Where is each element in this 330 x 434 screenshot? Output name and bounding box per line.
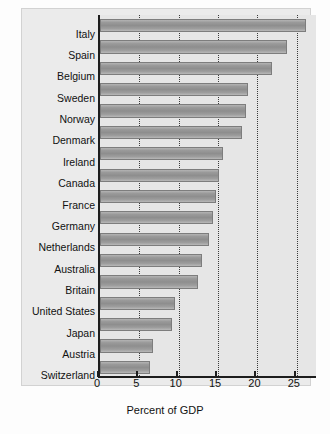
- category-axis-labels: ItalySpainBelgiumSwedenNorwayDenmarkIrel…: [22, 23, 95, 386]
- category-label-australia: Australia: [54, 264, 95, 275]
- x-axis: 0510152025: [97, 371, 315, 397]
- category-label-germany: Germany: [52, 221, 95, 232]
- category-label-ireland: Ireland: [63, 157, 95, 168]
- bar-row: [100, 147, 316, 160]
- category-label-france: France: [62, 200, 95, 211]
- bar-row: [100, 19, 316, 32]
- category-label-netherlands: Netherlands: [38, 242, 95, 253]
- bar-ireland: [100, 147, 223, 160]
- x-tick-label-25: 25: [288, 378, 300, 389]
- category-label-spain: Spain: [68, 50, 95, 61]
- bar-row: [100, 318, 316, 331]
- bar-row: [100, 297, 316, 310]
- bar-row: [100, 254, 316, 267]
- bar-united-states: [100, 297, 175, 310]
- bar-japan: [100, 318, 172, 331]
- x-tick-label-5: 5: [133, 378, 139, 389]
- bar-france: [100, 190, 216, 203]
- bar-row: [100, 190, 316, 203]
- bars-layer: [100, 15, 316, 376]
- bar-row: [100, 104, 316, 117]
- bar-austria: [100, 339, 153, 352]
- category-label-austria: Austria: [62, 349, 95, 360]
- bar-row: [100, 83, 316, 96]
- bar-chart-figure: ItalySpainBelgiumSwedenNorwayDenmarkIrel…: [0, 0, 330, 434]
- bar-spain: [100, 40, 287, 53]
- x-tick-label-10: 10: [170, 378, 182, 389]
- bar-row: [100, 339, 316, 352]
- bar-netherlands: [100, 233, 209, 246]
- bar-sweden: [100, 83, 248, 96]
- category-label-switzerland: Switzerland: [41, 370, 95, 381]
- x-tick-label-0: 0: [94, 378, 100, 389]
- category-label-britain: Britain: [65, 285, 95, 296]
- bar-row: [100, 169, 316, 182]
- category-label-japan: Japan: [66, 328, 95, 339]
- bar-belgium: [100, 62, 272, 75]
- chart-panel: ItalySpainBelgiumSwedenNorwayDenmarkIrel…: [21, 8, 311, 386]
- bar-row: [100, 275, 316, 288]
- bar-row: [100, 211, 316, 224]
- bar-germany: [100, 211, 213, 224]
- bar-italy: [100, 19, 306, 32]
- category-label-sweden: Sweden: [57, 93, 95, 104]
- bar-denmark: [100, 126, 242, 139]
- bar-norway: [100, 104, 246, 117]
- category-label-denmark: Denmark: [52, 135, 95, 146]
- category-label-italy: Italy: [76, 29, 95, 40]
- bar-britain: [100, 275, 198, 288]
- bar-row: [100, 40, 316, 53]
- bar-row: [100, 126, 316, 139]
- bar-row: [100, 62, 316, 75]
- plot-area: [98, 15, 316, 378]
- category-label-norway: Norway: [59, 114, 95, 125]
- bar-canada: [100, 169, 219, 182]
- x-tick-label-20: 20: [248, 378, 260, 389]
- category-label-belgium: Belgium: [57, 71, 95, 82]
- bar-australia: [100, 254, 202, 267]
- category-label-canada: Canada: [58, 178, 95, 189]
- bar-row: [100, 233, 316, 246]
- x-axis-title: Percent of GDP: [0, 404, 330, 416]
- x-tick-label-15: 15: [209, 378, 221, 389]
- category-label-united-states: United States: [32, 306, 95, 317]
